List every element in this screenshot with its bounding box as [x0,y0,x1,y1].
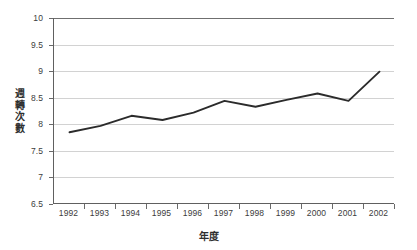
y-tickmark [49,177,53,178]
x-axis-tick-labels: 1992199319941995199619971998199920002001… [53,208,394,222]
y-tickmark [49,18,53,19]
y-tickmark [49,151,53,152]
x-tick-label: 1997 [214,208,233,218]
x-tick-label: 1992 [59,208,78,218]
x-tick-label: 1995 [152,208,171,218]
y-tickmark [49,45,53,46]
plot-area [53,18,394,204]
y-axis-title-char: 轉 [13,100,26,112]
y-tick-label: 9 [38,66,43,76]
y-tickmark [49,71,53,72]
x-tick-label: 2002 [369,208,388,218]
y-tickmark [49,204,53,205]
y-tick-label: 7 [38,172,43,182]
y-tick-label: 9.5 [31,40,43,50]
x-tick-label: 1999 [276,208,295,218]
x-tick-label: 1994 [121,208,140,218]
y-tick-label: 7.5 [31,146,43,156]
y-axis-title-char: 數 [13,123,26,135]
x-tickmark [394,204,395,209]
y-axis-title: 週轉次數 [13,88,26,134]
y-tick-label: 8 [38,119,43,129]
x-axis-title: 年度 [0,228,417,243]
x-tick-label: 2000 [307,208,326,218]
y-tick-label: 10 [33,13,43,23]
y-axis-title-char: 週 [13,88,26,100]
y-tickmark [49,124,53,125]
x-tick-label: 2001 [338,208,357,218]
y-tick-label: 8.5 [31,93,43,103]
x-tick-label: 1998 [245,208,264,218]
data-series-line [54,18,395,204]
line-chart: 6.577.588.599.510 週轉次數 19921993199419951… [0,0,417,250]
y-tickmark [49,98,53,99]
y-axis-title-char: 次 [13,111,26,123]
x-tick-label: 1996 [183,208,202,218]
y-tick-label: 6.5 [31,199,43,209]
x-tick-label: 1993 [90,208,109,218]
